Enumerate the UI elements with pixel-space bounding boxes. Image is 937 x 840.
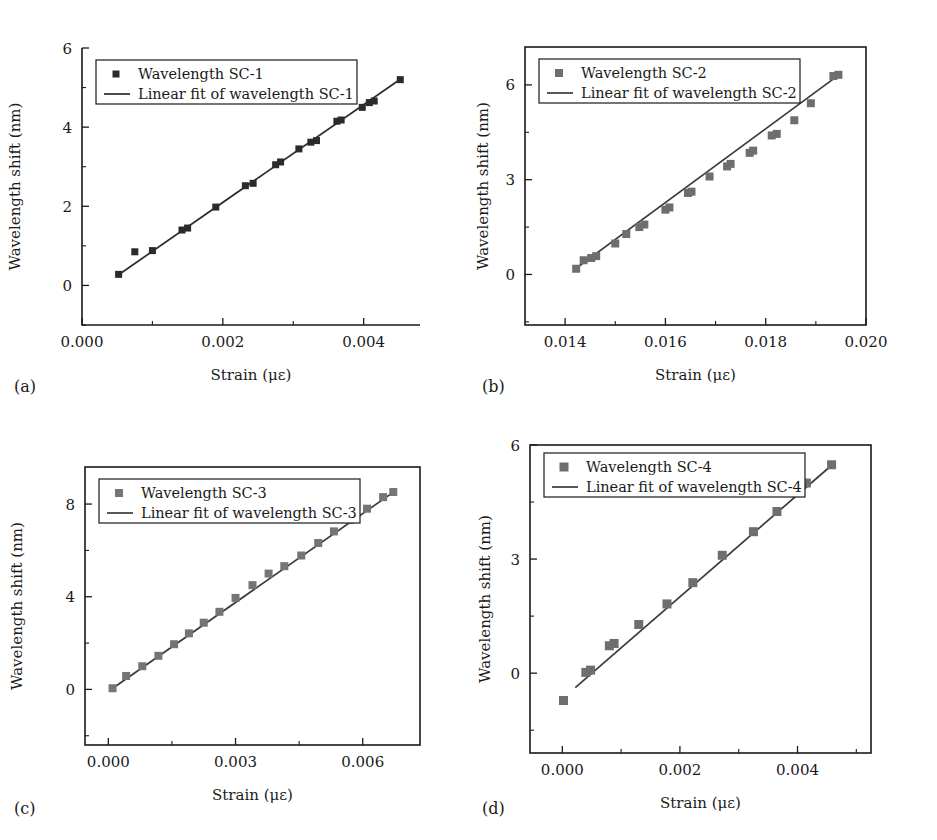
data-point [634,620,643,629]
x-tick-label: 0.014 [544,333,587,351]
y-axis-title: Wavelength shift (nm) [476,515,494,683]
data-point [687,188,695,196]
data-point [330,527,338,535]
chart-svg-a: 02460.0000.0020.004Wavelength shift (nm)… [0,0,468,420]
x-tick-label: 0.002 [201,333,244,351]
legend-label: Linear fit of wavelength SC-1 [138,86,354,102]
x-tick-label: 0.000 [541,761,584,779]
chart-panel-b: 0360.0140.0160.0180.020Wavelength shift … [468,0,936,420]
x-tick-label: 0.018 [744,333,787,351]
chart-svg-b: 0360.0140.0160.0180.020Wavelength shift … [468,0,936,420]
x-axis-title: Strain (με) [660,794,741,812]
data-point [242,182,249,189]
panel-letter-b: (b) [482,377,505,396]
data-point [610,639,619,648]
legend-label: Wavelength SC-4 [586,459,712,475]
legend-d: Wavelength SC-4Linear fit of wavelength … [544,453,805,497]
data-point [295,145,302,152]
data-point [122,672,130,680]
data-point [232,594,240,602]
y-axis-b: 036 [505,76,532,321]
data-point [359,104,366,111]
x-axis-b: 0.0140.0160.0180.020 [544,318,888,351]
data-point [265,570,273,578]
data-point [592,252,600,260]
x-axis-title: Strain (με) [212,786,293,804]
data-point [706,173,714,181]
data-point [363,505,371,513]
data-point [109,684,117,692]
data-point [250,180,257,187]
data-point [212,204,219,211]
x-tick-label: 0.004 [776,761,819,779]
data-point [184,225,191,232]
y-tick-label: 6 [62,40,72,58]
data-point [131,248,138,255]
legend-a: Wavelength SC-1Linear fit of wavelength … [96,60,357,104]
data-point [727,160,735,168]
fit-line-a [119,79,401,274]
legend-marker-icon [113,71,120,78]
legend-c: Wavelength SC-3Linear fit of wavelength … [99,479,360,523]
legend-label: Linear fit of wavelength SC-2 [581,85,797,101]
data-point [834,71,842,79]
x-axis-a: 0.0000.0020.004 [61,318,386,351]
data-point [138,662,146,670]
data-point [586,666,595,675]
x-axis-d: 0.0000.0020.004 [541,746,856,779]
data-point [559,696,568,705]
chart-panel-c: 0480.0000.0030.006Wavelength shift (nm)S… [0,420,468,840]
data-point [827,460,836,469]
data-point [297,551,305,559]
data-point [185,629,193,637]
data-point [379,493,387,501]
data-point [154,652,162,660]
data-point [280,562,288,570]
y-tick-label: 2 [62,198,72,216]
data-point [662,599,671,608]
data-point [249,581,257,589]
data-point [665,203,673,211]
data-point [277,158,284,165]
panel-letter-d: (d) [482,799,505,818]
y-tick-label: 4 [62,119,72,137]
data-point [314,539,322,547]
legend-label: Linear fit of wavelength SC-3 [141,505,357,521]
chart-svg-d: 0360.0000.0020.004Wavelength shift (nm)S… [468,420,936,840]
y-tick-label: 6 [505,76,515,94]
data-point [572,265,580,273]
legend-label: Wavelength SC-3 [141,485,267,501]
data-point [772,507,781,516]
x-tick-label: 0.006 [341,753,384,771]
data-point [149,247,156,254]
x-axis-title: Strain (με) [655,366,736,384]
data-point [807,99,815,107]
y-axis-title: Wavelength shift (nm) [8,522,26,690]
legend-marker-icon [555,69,563,77]
panel-letter-c: (c) [14,799,35,818]
data-point [580,256,588,264]
data-point [622,230,630,238]
y-axis-a: 0246 [62,40,89,326]
data-point [389,488,397,496]
data-point [773,130,781,138]
data-point [688,578,697,587]
y-tick-label: 3 [505,171,515,189]
data-point [200,619,208,627]
legend-b: Wavelength SC-2Linear fit of wavelength … [539,59,800,103]
y-tick-label: 4 [65,588,75,606]
y-axis-title: Wavelength shift (nm) [6,103,24,271]
panel-letter-a: (a) [14,377,36,396]
y-tick-label: 6 [510,437,520,455]
y-tick-label: 0 [510,665,520,683]
figure-root: 02460.0000.0020.004Wavelength shift (nm)… [0,0,937,840]
x-tick-label: 0.020 [845,333,888,351]
data-point [313,137,320,144]
y-tick-label: 3 [510,551,520,569]
data-point [215,608,223,616]
y-axis-c: 048 [65,496,92,736]
data-point [611,239,619,247]
data-point [371,98,378,105]
chart-panel-a: 02460.0000.0020.004Wavelength shift (nm)… [0,0,468,420]
legend-marker-icon [115,489,123,497]
